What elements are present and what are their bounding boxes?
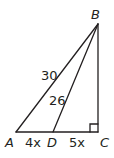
vertex-label-a: A — [4, 135, 14, 150]
vertex-label-d: D — [47, 135, 57, 150]
segment-db — [53, 24, 98, 132]
length-label-ab: 30 — [41, 68, 58, 83]
triangle-diagram: B A D C 30 26 4x 5x — [0, 0, 114, 158]
length-label-dc: 5x — [69, 135, 85, 150]
vertex-label-c: C — [100, 135, 110, 150]
length-label-db: 26 — [49, 93, 66, 108]
length-label-ad: 4x — [25, 135, 41, 150]
right-angle-marker-icon — [90, 124, 98, 132]
vertex-label-b: B — [91, 7, 100, 22]
